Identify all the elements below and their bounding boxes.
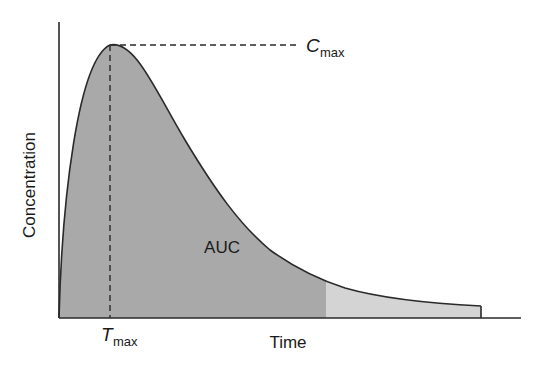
auc-area — [59, 45, 481, 318]
tmax-label: T max — [101, 324, 138, 349]
tmax-label-sub: max — [113, 334, 138, 349]
pk-curve-diagram: Concentration Time AUC C max T max — [0, 0, 543, 373]
cmax-label-main: C — [306, 35, 320, 56]
y-axis-label: Concentration — [20, 132, 39, 238]
cmax-label-sub: max — [320, 45, 345, 60]
auc-region-dark — [59, 45, 481, 318]
x-axis-label: Time — [269, 333, 306, 352]
auc-label: AUC — [204, 238, 240, 257]
cmax-label: C max — [306, 35, 345, 60]
